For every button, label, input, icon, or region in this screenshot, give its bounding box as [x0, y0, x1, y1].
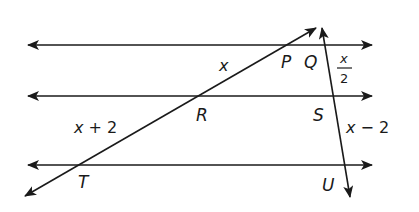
svg-text:2: 2: [340, 71, 348, 86]
segment-label-pr: x: [218, 56, 229, 75]
svg-text:x: x: [339, 51, 348, 66]
point-label-t: T: [78, 172, 90, 192]
point-label-r: R: [196, 105, 208, 125]
segment-label-qs: x 2: [337, 51, 352, 86]
transversal-left: [25, 28, 316, 196]
point-label-q: Q: [304, 52, 317, 72]
segment-label-rt: x + 2: [73, 118, 117, 137]
segment-label-su: x − 2: [345, 118, 389, 137]
point-label-s: S: [313, 105, 324, 125]
parallel-lines-diagram: P Q R S T U x x + 2 x 2 x − 2: [0, 0, 419, 212]
point-label-u: U: [322, 175, 335, 195]
point-label-p: P: [281, 52, 292, 72]
